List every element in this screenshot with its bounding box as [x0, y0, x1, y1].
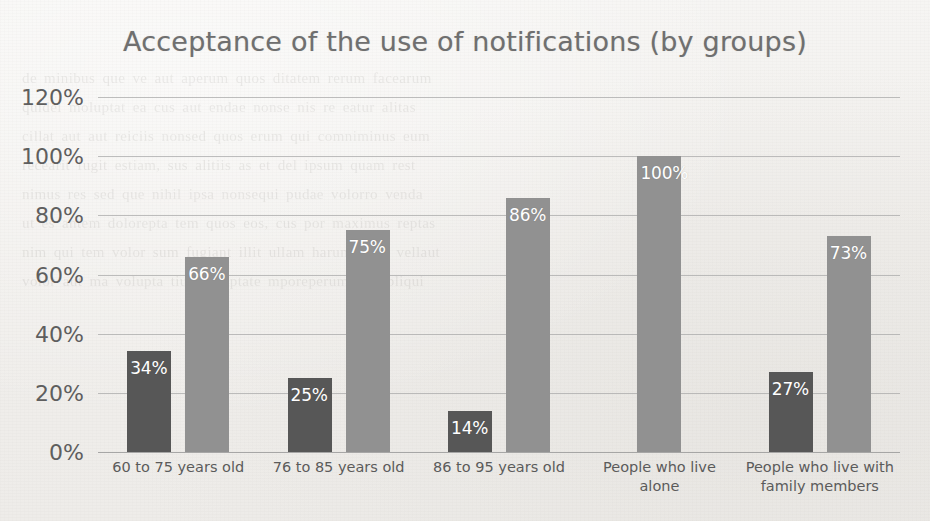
bar-chart: Acceptance of the use of notifications (… [0, 0, 930, 521]
bar-pair: 27%73% [740, 97, 900, 452]
y-axis-tick-label: 100% [8, 144, 84, 169]
y-axis-tick-label: 60% [8, 262, 84, 287]
bar-dark[interactable]: 25% [288, 378, 332, 452]
bar-group: 27%73% [740, 97, 900, 452]
category-label: 76 to 85 years old [258, 458, 418, 496]
y-axis-tick-label: 0% [8, 440, 84, 465]
bar-value-label: 73% [830, 243, 867, 263]
bar-group: 14%86% [419, 97, 579, 452]
bar-value-label: 34% [130, 358, 167, 378]
bar-group: 100% [579, 97, 739, 452]
bar-value-label: 75% [349, 237, 386, 257]
bar-light[interactable]: 66% [185, 257, 229, 452]
bar-value-label: 25% [291, 385, 328, 405]
y-axis-tick-label: 20% [8, 380, 84, 405]
bar-group: 34%66% [98, 97, 258, 452]
scanned-page: de minibus que ve aut aperum quos ditate… [0, 0, 930, 521]
category-label: 86 to 95 years old [419, 458, 579, 496]
y-axis-tick-label: 120% [8, 85, 84, 110]
y-axis-tick-label: 40% [8, 321, 84, 346]
category-label: People who live with family members [740, 458, 900, 496]
bar-value-label: 27% [772, 379, 809, 399]
y-axis-tick-label: 80% [8, 203, 84, 228]
gridline-0 [98, 452, 900, 453]
bar-value-label: 14% [451, 418, 488, 438]
bar-value-label: 100% [640, 163, 688, 183]
bar-light[interactable]: 73% [827, 236, 871, 452]
bar-pair: 14%86% [419, 97, 579, 452]
bar-value-label: 66% [188, 264, 225, 284]
category-label: People who live alone [579, 458, 739, 496]
category-label: 60 to 75 years old [98, 458, 258, 496]
bar-light[interactable]: 75% [346, 230, 390, 452]
bar-pair: 25%75% [258, 97, 418, 452]
bar-groups: 34%66%25%75%14%86%100%27%73% [98, 97, 900, 452]
x-axis-category-labels: 60 to 75 years old76 to 85 years old86 t… [98, 458, 900, 496]
bar-dark[interactable]: 27% [769, 372, 813, 452]
bar-light[interactable]: 100% [637, 156, 681, 452]
bar-value-label: 86% [509, 205, 546, 225]
bar-pair: 100% [579, 97, 739, 452]
chart-title: Acceptance of the use of notifications (… [0, 26, 930, 57]
bar-group: 25%75% [258, 97, 418, 452]
bar-dark[interactable]: 34% [127, 351, 171, 452]
bar-dark[interactable]: 14% [448, 411, 492, 452]
bar-light[interactable]: 86% [506, 198, 550, 452]
bar-pair: 34%66% [98, 97, 258, 452]
